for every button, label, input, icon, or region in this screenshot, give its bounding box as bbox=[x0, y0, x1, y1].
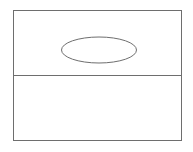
ellipse-shape bbox=[62, 37, 137, 63]
diagram-canvas bbox=[0, 0, 193, 152]
